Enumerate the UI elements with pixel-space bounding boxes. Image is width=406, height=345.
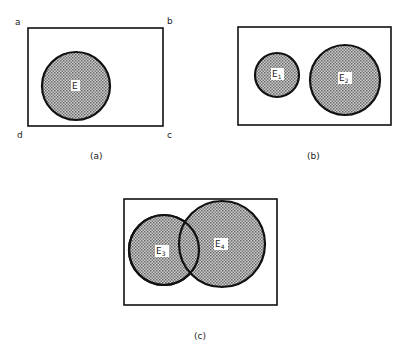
panel-b: E1 E2 (b) — [238, 27, 391, 161]
caption-c: (c) — [194, 331, 206, 341]
corner-c: c — [167, 130, 172, 140]
caption-b: (b) — [307, 151, 320, 161]
corner-b: b — [167, 16, 173, 26]
panel-c: E3 E4 (c) — [124, 199, 277, 341]
corner-a: a — [15, 17, 21, 27]
corner-d: d — [17, 130, 23, 140]
panel-a: E a b d c (a) — [15, 16, 173, 161]
venn-diagrams: E a b d c (a) E1 E2 (b) E3 E4 (c) — [0, 0, 406, 345]
caption-a: (a) — [90, 151, 103, 161]
event-e-label: E — [72, 81, 78, 91]
